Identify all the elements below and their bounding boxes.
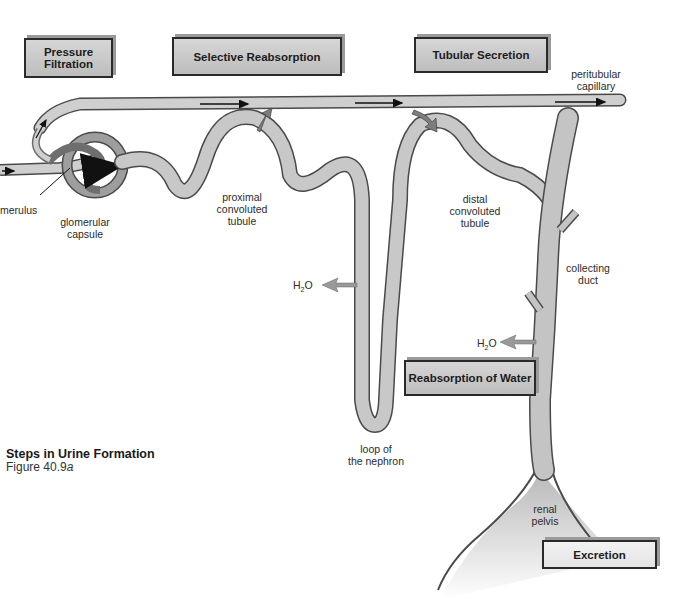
renal-pelvis-shape [438,470,610,600]
selective-reabsorption-label: Selective Reabsorption [193,51,320,63]
distal-tubule-label: distalconvolutedtubule [440,193,510,229]
peritubular-capillary-label: peritubularcapillary [560,68,632,92]
water-label-duct: H2O [477,337,497,354]
renal-pelvis-label: renalpelvis [523,503,567,527]
figure-number: Figure 40.9a [6,460,73,474]
excretion-box: Excretion [542,540,657,569]
proximal-tubule-label: proximalconvolutedtubule [207,191,277,227]
glomerular-capsule-shape [36,120,123,195]
reabsorption-of-water-label: Reabsorption of Water [409,372,532,384]
glomerular-capsule-label: glomerularcapsule [50,216,120,240]
selective-reabsorption-box: Selective Reabsorption [172,37,342,76]
pressure-filtration-box: Pressure Filtration [24,38,113,78]
loop-of-nephron-label: loop ofthe nephron [340,443,412,467]
collecting-duct-shape [528,118,576,470]
tubular-secretion-label: Tubular Secretion [433,49,530,61]
excretion-label: Excretion [573,549,625,561]
figure-title: Steps in Urine Formation [6,447,155,461]
reabsorption-of-water-box: Reabsorption of Water [404,360,536,396]
water-arrow-duct [500,335,536,349]
tubular-secretion-box: Tubular Secretion [414,37,548,73]
pressure-filtration-label: Pressure Filtration [39,46,99,70]
peritubular-capillary-shape [40,100,620,128]
glomerulus-label: merulus [0,204,37,216]
collecting-duct-label: collectingduct [560,262,616,286]
water-arrow-loop [322,278,357,292]
water-label-loop: H2O [293,279,313,296]
